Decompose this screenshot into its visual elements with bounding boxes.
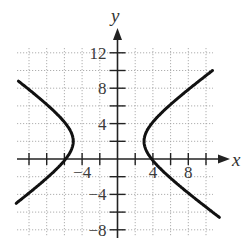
x-tick-label: 4 [149,163,158,182]
y-tick-label: 4 [98,115,107,134]
hyperbola-chart: y x −4481284−4−8 [0,0,244,250]
y-tick-label: 12 [90,44,107,63]
y-tick-label: 8 [98,79,107,98]
axes [17,28,230,238]
x-tick-label: −4 [73,163,92,182]
y-axis-arrow-icon [113,28,122,40]
x-axis-label: x [231,149,241,170]
x-axis-arrow-icon [218,155,230,164]
hyperbola-right-branch [144,71,219,218]
y-tick-label: −8 [88,221,106,240]
y-axis-label: y [109,5,120,26]
x-tick-label: 8 [184,163,193,182]
y-tick-label: −4 [88,185,107,204]
tick-labels: −4481284−4−8 [73,44,192,240]
